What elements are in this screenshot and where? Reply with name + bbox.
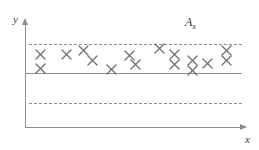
data-point-marker bbox=[35, 49, 46, 60]
data-point-marker bbox=[87, 55, 98, 66]
data-point-marker bbox=[106, 64, 117, 75]
y-axis-label: y bbox=[13, 14, 18, 25]
lower-control-limit-line bbox=[29, 103, 242, 104]
data-point-marker bbox=[35, 63, 46, 74]
data-point-marker bbox=[202, 58, 213, 69]
center-line bbox=[25, 73, 242, 74]
upper-control-limit-line bbox=[29, 44, 242, 45]
data-point-marker bbox=[130, 59, 141, 70]
x-axis-arrowhead bbox=[240, 124, 247, 130]
data-point-marker bbox=[221, 55, 232, 66]
y-axis-arrowhead bbox=[22, 18, 28, 25]
y-axis-line bbox=[25, 24, 26, 128]
data-point-marker bbox=[154, 43, 165, 54]
data-point-marker bbox=[187, 65, 198, 76]
data-point-marker bbox=[169, 59, 180, 70]
region-label-subscript: x bbox=[192, 22, 196, 31]
x-axis-label: x bbox=[245, 134, 250, 145]
x-axis-line bbox=[25, 127, 241, 128]
data-point-marker bbox=[61, 49, 72, 60]
region-label: Ax bbox=[185, 16, 196, 31]
control-chart-figure: y x Ax bbox=[0, 0, 259, 150]
